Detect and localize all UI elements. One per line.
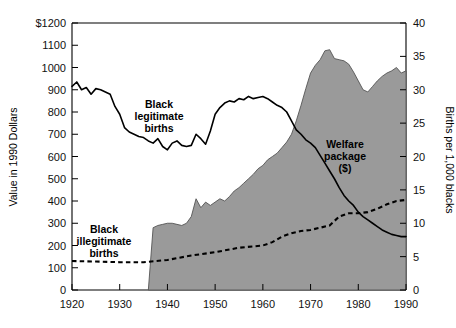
x-axis-tick-label: 1930 [107,298,131,310]
chart-container: 010020030040050060070080090010001100$120… [0,0,456,328]
y-axis-right-tick-label: 35 [413,50,425,62]
x-axis-tick-label: 1970 [298,298,322,310]
y-axis-right-tick-label: 0 [413,284,419,296]
x-axis-tick-label: 1940 [155,298,179,310]
y-axis-left-tick-label: 800 [48,106,66,118]
y-axis-right-tick-label: 30 [413,84,425,96]
y-axis-left-tick-label: 1000 [42,62,66,74]
annotation-line: Welfare [326,138,364,150]
annotation-line: births [89,247,118,259]
annotation-line: package [324,150,366,162]
y-axis-right-tick-label: 20 [413,151,425,163]
x-axis-tick-label: 1950 [203,298,227,310]
x-axis-tick-label: 1980 [346,298,370,310]
y-axis-right-tick-label: 15 [413,184,425,196]
y-axis-left-tick-label: 1100 [42,39,66,51]
y-axis-left-tick-label: 400 [48,195,66,207]
annotation-line: illegitimate [77,235,132,247]
y-axis-right-tick-label: 25 [413,117,425,129]
y-axis-left-title: Value in 1990 Dollars [7,107,19,206]
annotation-line: ($) [339,162,352,174]
y-axis-left-tick-label: 100 [48,262,66,274]
y-axis-left-tick-label: 700 [48,128,66,140]
chart-svg: 010020030040050060070080090010001100$120… [0,0,456,328]
annotation-line: births [144,122,173,134]
y-axis-left-tick-label: 300 [48,217,66,229]
y-axis-right-title: Births per 1,000 blacks [444,107,456,214]
annotation-line: legitimate [134,110,183,122]
x-axis-tick-label: 1920 [60,298,84,310]
y-axis-right-tick-label: 40 [413,17,425,29]
annotation-line: Black [90,223,118,235]
y-axis-right-tick-label: 5 [413,251,419,263]
y-axis-left-tick-label: $1200 [35,17,66,29]
y-axis-left-tick-label: 900 [48,84,66,96]
y-axis-left-tick-label: 600 [48,151,66,163]
x-axis-tick-label: 1990 [394,298,418,310]
y-axis-right-tick-label: 10 [413,217,425,229]
y-axis-left-tick-label: 200 [48,240,66,252]
y-axis-left-tick-label: 0 [60,284,66,296]
y-axis-left-tick-label: 500 [48,173,66,185]
x-axis-tick-label: 1960 [251,298,275,310]
annotation-line: Black [145,98,173,110]
